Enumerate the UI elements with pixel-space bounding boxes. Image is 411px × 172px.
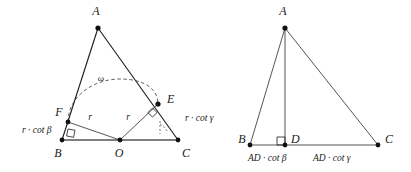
right-panel-group: A B D C AD · cot β AD · cot γ xyxy=(238,4,394,163)
label-tangent-CE: r · cot γ xyxy=(185,113,214,123)
vertex-label-C: C xyxy=(182,146,191,160)
vertex-label-C-right: C xyxy=(385,132,394,146)
geometry-figure: A B C O E F r r r · cot β r · cot γ ω xyxy=(0,0,411,172)
vertex-dot-O xyxy=(118,138,123,143)
label-base-BD: AD · cot β xyxy=(247,153,287,163)
vertex-label-A: A xyxy=(91,4,100,18)
vertex-label-D-right: D xyxy=(290,132,300,146)
label-base-DC: AD · cot γ xyxy=(312,153,351,163)
vertex-dot-A xyxy=(95,25,100,30)
left-panel-group: A B C O E F r r r · cot β r · cot γ ω xyxy=(22,4,214,160)
vertex-dot-C xyxy=(176,138,181,143)
vertex-label-B: B xyxy=(54,146,62,160)
vertex-dot-F xyxy=(66,120,71,125)
vertex-dot-D-right xyxy=(283,143,288,148)
vertex-dot-E xyxy=(155,101,160,106)
label-tangent-BF: r · cot β xyxy=(22,125,52,135)
vertex-label-F: F xyxy=(54,105,63,119)
incircle-arc xyxy=(68,79,158,122)
label-arc-angle-omega: ω xyxy=(98,73,104,83)
right-angle-at-F xyxy=(67,129,75,137)
vertex-label-A-right: A xyxy=(278,4,287,18)
vertex-dot-C-right xyxy=(376,143,381,148)
side-AB-right xyxy=(250,28,285,145)
vertex-dot-B xyxy=(60,138,65,143)
angle-gamma-marker xyxy=(160,124,167,131)
radius-OE-line xyxy=(120,104,158,140)
label-radius-OF: r xyxy=(88,112,92,122)
figure-canvas: A B C O E F r r r · cot β r · cot γ ω xyxy=(0,0,411,172)
vertex-label-E: E xyxy=(166,92,175,106)
radius-OF-line xyxy=(68,122,120,140)
vertex-dot-B-right xyxy=(248,143,253,148)
vertex-dot-A-right xyxy=(282,25,287,30)
vertex-label-B-right: B xyxy=(238,132,246,146)
vertex-label-O: O xyxy=(115,146,124,160)
label-radius-OE: r xyxy=(126,112,130,122)
side-AC-right xyxy=(285,28,378,145)
